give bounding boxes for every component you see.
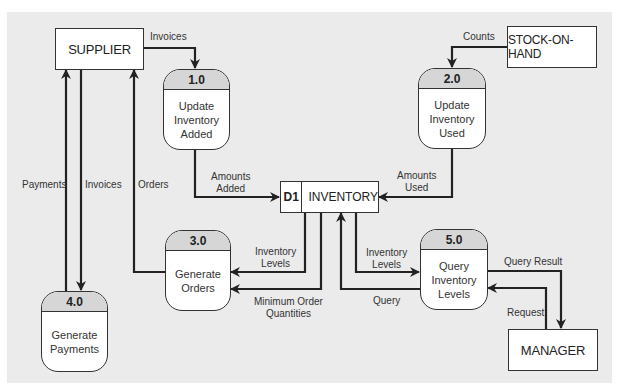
- flow-label-orders: Orders: [138, 179, 169, 191]
- process-id: 3.0: [166, 231, 230, 251]
- flow-3-to-supplier-orders: [134, 70, 165, 272]
- process-1-update-inventory-added[interactable]: 1.0 Update Inventory Added: [163, 69, 230, 150]
- flow-5-to-manager-query-result: [487, 271, 561, 328]
- process-id: 2.0: [419, 69, 485, 89]
- entity-label: SUPPLIER: [68, 42, 131, 57]
- process-name: Update Inventory Used: [419, 89, 485, 148]
- entity-manager[interactable]: MANAGER: [508, 329, 598, 371]
- flow-label-inventory-levels-to-3: Inventory Levels: [255, 246, 296, 270]
- datastore-name: INVENTORY: [302, 182, 378, 212]
- flow-label-invoices-to-4: Invoices: [85, 179, 122, 191]
- datastore-id: D1: [281, 182, 302, 212]
- entity-label: STOCK-ON-HAND: [508, 33, 596, 61]
- process-3-generate-orders[interactable]: 3.0 Generate Orders: [165, 230, 231, 311]
- process-name: Generate Payments: [42, 312, 107, 371]
- flow-label-amounts-added: Amounts Added: [211, 171, 250, 195]
- process-id: 5.0: [421, 230, 487, 250]
- flow-label-amounts-used: Amounts Used: [397, 170, 436, 194]
- flow-label-counts: Counts: [463, 31, 495, 43]
- process-2-update-inventory-used[interactable]: 2.0 Update Inventory Used: [418, 68, 486, 149]
- process-id: 1.0: [164, 70, 229, 90]
- flow-label-inventory-levels-to-5: Inventory Levels: [366, 247, 407, 271]
- entity-supplier[interactable]: SUPPLIER: [55, 28, 144, 70]
- flow-label-request: Request: [507, 307, 544, 319]
- flow-label-query-result: Query Result: [504, 256, 562, 268]
- process-name: Generate Orders: [166, 251, 230, 310]
- entity-stock-on-hand[interactable]: STOCK-ON-HAND: [507, 26, 597, 68]
- process-5-query-inventory-levels[interactable]: 5.0 Query Inventory Levels: [420, 229, 488, 310]
- process-id: 4.0: [42, 292, 107, 312]
- flow-label-invoices-to-1: Invoices: [150, 31, 187, 43]
- datastore-d1-inventory[interactable]: D1 INVENTORY: [280, 181, 379, 213]
- entity-label: MANAGER: [521, 343, 585, 358]
- flow-supplier-to-1-invoices: [143, 48, 195, 68]
- process-4-generate-payments[interactable]: 4.0 Generate Payments: [41, 291, 108, 372]
- flow-stock-to-2-counts: [452, 47, 507, 67]
- flow-label-min-order-quantities: Minimum Order Quantities: [254, 296, 323, 320]
- flow-label-payments: Payments: [22, 179, 66, 191]
- process-name: Query Inventory Levels: [421, 250, 487, 309]
- flow-label-query: Query: [373, 295, 400, 307]
- process-name: Update Inventory Added: [164, 90, 229, 149]
